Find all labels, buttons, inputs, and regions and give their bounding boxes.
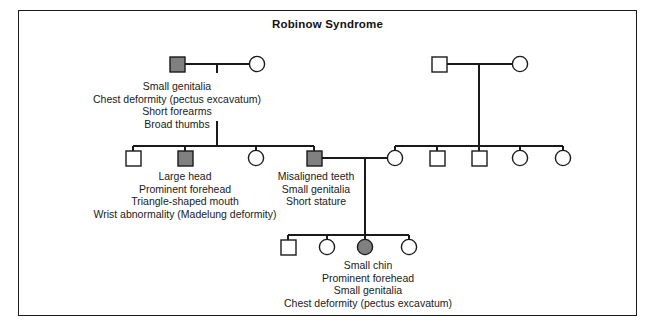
individual-I-1-affected-male[interactable] bbox=[170, 57, 185, 72]
feature-line: Broad thumbs bbox=[47, 118, 307, 131]
individual-II-5-unaffected-female[interactable] bbox=[387, 150, 402, 165]
feature-line: Small chin bbox=[238, 259, 498, 272]
feature-line: Small genitalia bbox=[264, 183, 368, 196]
individual-I-4-unaffected-female[interactable] bbox=[512, 56, 527, 71]
feature-line: Short stature bbox=[264, 195, 368, 208]
feature-line: Wrist abnormality (Madelung deformity) bbox=[45, 208, 325, 221]
feature-line: Small genitalia bbox=[47, 80, 307, 93]
individual-II-4-affected-male[interactable] bbox=[307, 151, 322, 166]
individual-II-7-unaffected-male[interactable] bbox=[472, 151, 487, 166]
individual-II-2-affected-male[interactable] bbox=[178, 151, 193, 166]
feature-line: Prominent forehead bbox=[238, 272, 498, 285]
top-left-affected-male-features: Small genitalia Chest deformity (pectus … bbox=[47, 80, 307, 130]
individual-II-6-unaffected-male[interactable] bbox=[430, 151, 445, 166]
feature-line: Short forearms bbox=[47, 105, 307, 118]
individual-II-9-unaffected-female[interactable] bbox=[555, 150, 570, 165]
individual-I-3-unaffected-male[interactable] bbox=[432, 57, 447, 72]
feature-line: Chest deformity (pectus excavatum) bbox=[238, 297, 498, 310]
pedigree-figure: Robinow Syndrome bbox=[0, 0, 655, 331]
individual-III-3-affected-female[interactable] bbox=[357, 239, 372, 254]
feature-line: Misaligned teeth bbox=[264, 170, 368, 183]
feature-line: Chest deformity (pectus excavatum) bbox=[47, 93, 307, 106]
individual-II-8-unaffected-female[interactable] bbox=[512, 150, 527, 165]
individual-III-2-unaffected-female[interactable] bbox=[319, 239, 334, 254]
individual-II-1-unaffected-male[interactable] bbox=[126, 151, 141, 166]
individual-II-3-unaffected-female[interactable] bbox=[248, 150, 263, 165]
feature-line: Small genitalia bbox=[238, 284, 498, 297]
third-generation-affected-female-features: Small chin Prominent forehead Small geni… bbox=[238, 259, 498, 309]
individual-III-4-unaffected-female[interactable] bbox=[401, 239, 416, 254]
individual-I-2-unaffected-female[interactable] bbox=[249, 56, 264, 71]
second-generation-affected-male-2-features: Misaligned teeth Small genitalia Short s… bbox=[264, 170, 368, 208]
individual-III-1-unaffected-male[interactable] bbox=[281, 240, 296, 255]
